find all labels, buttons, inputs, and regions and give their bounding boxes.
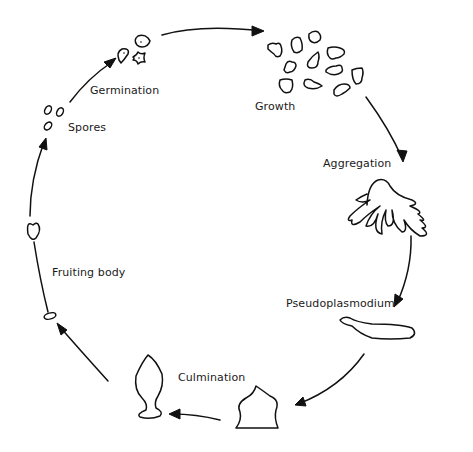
arrow-culmination-to-fruiting-body — [169, 409, 220, 420]
arrow-aggregation-to-pseudoplasmodium — [394, 236, 411, 307]
diagram-canvas — [0, 0, 473, 452]
label-growth: Growth — [255, 100, 295, 113]
label-spores: Spores — [68, 121, 106, 134]
spores-icon — [43, 105, 65, 132]
label-pseudoplasmodium: Pseudoplasmodium — [286, 297, 395, 310]
culmination-bulb-icon — [136, 355, 163, 418]
arrow-pseudoplasmodium-to-culmination — [295, 354, 364, 406]
label-germination: Germination — [90, 84, 159, 97]
pseudoplasmodium-icon — [340, 317, 415, 339]
culmination-mound-icon — [236, 386, 278, 428]
arrow-growth-to-aggregation — [366, 97, 407, 162]
label-fruiting-body: Fruiting body — [52, 266, 125, 279]
life-cycle-diagram: Germination Growth Aggregation Pseudopla… — [0, 0, 473, 452]
aggregation-icon — [348, 180, 426, 236]
label-aggregation: Aggregation — [323, 157, 391, 170]
arrow-germination-to-growth — [162, 26, 264, 36]
growth-amoebae-icon — [268, 31, 363, 96]
germination-icon — [118, 35, 150, 64]
arrow-culmination-to-fruiting-body-left — [57, 323, 108, 381]
arrow-fruiting-body-to-spores — [30, 138, 47, 216]
label-culmination: Culmination — [178, 371, 245, 384]
